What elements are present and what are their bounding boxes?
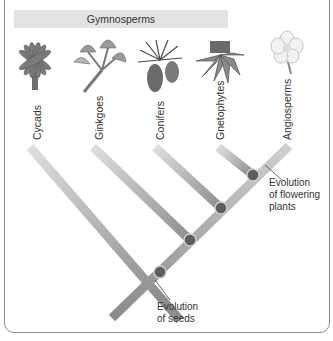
taxon-label-conifers: Conifers bbox=[154, 101, 166, 140]
gnetophyte-plant-icon bbox=[196, 41, 244, 83]
branch-cycads bbox=[30, 147, 180, 320]
cycad-plant-icon bbox=[17, 42, 52, 90]
node-seeds bbox=[154, 266, 166, 278]
trunk-angiosperms bbox=[112, 146, 289, 318]
taxon-label-ginkgoes: Ginkgoes bbox=[93, 96, 105, 140]
flower-icon bbox=[271, 31, 303, 74]
node-3 bbox=[215, 202, 227, 214]
annotation-seeds: Evolution of seeds bbox=[157, 301, 198, 325]
taxon-label-gnetophytes: Gnetophytes bbox=[214, 80, 226, 140]
annotation-line: Evolution bbox=[269, 177, 320, 189]
annotation-line: of seeds bbox=[157, 313, 198, 325]
node-2 bbox=[184, 234, 196, 246]
cladogram bbox=[0, 0, 333, 341]
taxon-label-cycads: Cycads bbox=[31, 105, 43, 140]
annotation-line: plants bbox=[269, 201, 320, 213]
annotation-flowering-plants: Evolution of flowering plants bbox=[269, 177, 320, 213]
taxon-label-angiosperms: Angiosperms bbox=[281, 79, 293, 140]
node-flowering bbox=[247, 169, 259, 181]
annotation-line: of flowering bbox=[269, 189, 320, 201]
annotation-line: Evolution bbox=[157, 301, 198, 313]
branch-conifers bbox=[155, 147, 221, 208]
ginkgo-leaves-icon bbox=[74, 40, 126, 92]
conifer-cones-icon bbox=[138, 40, 182, 92]
